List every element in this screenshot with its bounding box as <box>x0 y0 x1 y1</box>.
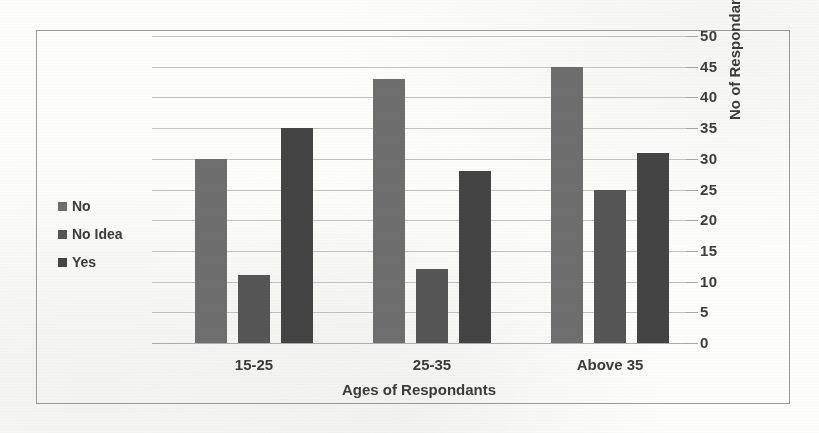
y-tickmark-45 <box>686 67 698 68</box>
scanned-page: No No Idea Yes 05101520253035404550 No o… <box>0 0 819 433</box>
gridline-40 <box>152 97 686 98</box>
bar-no-15-25[interactable] <box>195 159 227 343</box>
gridline-30 <box>152 159 686 160</box>
y-tickmark-30 <box>686 159 698 160</box>
y-tick-label-20: 20 <box>700 211 734 228</box>
x-tick-label-above-35: Above 35 <box>531 356 689 373</box>
legend-item-no[interactable]: No <box>58 192 123 220</box>
legend-swatch-yes <box>58 258 67 267</box>
gridline-50 <box>152 36 686 37</box>
bar-yes-above-35[interactable] <box>637 153 669 343</box>
y-tickmark-40 <box>686 97 698 98</box>
y-tickmark-10 <box>686 282 698 283</box>
bar-yes-15-25[interactable] <box>281 128 313 343</box>
plot-area <box>152 36 686 343</box>
y-tick-label-30: 30 <box>700 150 734 167</box>
y-tickmark-15 <box>686 251 698 252</box>
y-tick-label-5: 5 <box>700 303 734 320</box>
bar-yes-25-35[interactable] <box>459 171 491 343</box>
y-tickmark-50 <box>686 36 698 37</box>
bar-no-idea-above-35[interactable] <box>594 190 626 344</box>
gridline-0 <box>152 343 686 344</box>
legend-label-no: No <box>72 198 91 214</box>
bar-no-25-35[interactable] <box>373 79 405 343</box>
y-tickmark-25 <box>686 190 698 191</box>
x-tick-label-25-35: 25-35 <box>353 356 511 373</box>
x-tick-label-15-25: 15-25 <box>175 356 333 373</box>
legend-label-yes: Yes <box>72 254 96 270</box>
y-tick-label-25: 25 <box>700 181 734 198</box>
legend-swatch-no <box>58 202 67 211</box>
bar-no-above-35[interactable] <box>551 67 583 343</box>
legend-swatch-no-idea <box>58 230 67 239</box>
legend-item-no-idea[interactable]: No Idea <box>58 220 123 248</box>
gridline-45 <box>152 67 686 68</box>
chart-legend: No No Idea Yes <box>58 192 123 276</box>
y-tick-label-10: 10 <box>700 273 734 290</box>
bar-no-idea-15-25[interactable] <box>238 275 270 343</box>
bar-no-idea-25-35[interactable] <box>416 269 448 343</box>
y-tick-label-15: 15 <box>700 242 734 259</box>
y-tick-label-0: 0 <box>700 334 734 351</box>
x-axis-title: Ages of Respondants <box>152 381 686 398</box>
y-tickmark-35 <box>686 128 698 129</box>
y-tick-label-35: 35 <box>700 119 734 136</box>
y-axis-title: No of Respondants <box>726 0 743 120</box>
gridline-35 <box>152 128 686 129</box>
y-tickmark-20 <box>686 220 698 221</box>
y-tickmark-0 <box>686 343 698 344</box>
y-tickmark-5 <box>686 312 698 313</box>
legend-label-no-idea: No Idea <box>72 226 123 242</box>
legend-item-yes[interactable]: Yes <box>58 248 123 276</box>
